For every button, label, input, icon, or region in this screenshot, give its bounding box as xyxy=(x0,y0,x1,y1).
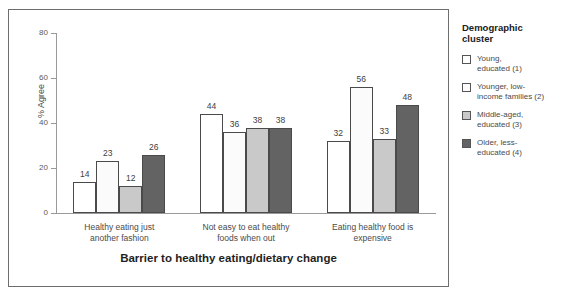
y-axis-title: % Agree xyxy=(36,56,46,146)
legend-items: Young, educated (1)Younger, low- income … xyxy=(462,54,558,157)
legend-item-label: Older, less- educated (4) xyxy=(477,138,522,157)
bar xyxy=(223,132,246,213)
bar-value-label: 56 xyxy=(344,75,379,84)
y-tick-label: 0 xyxy=(22,209,48,217)
y-tick xyxy=(51,213,56,214)
legend-item-label: Middle-aged, educated (3) xyxy=(477,110,523,129)
bar xyxy=(350,87,373,213)
y-tick xyxy=(51,123,56,124)
bar xyxy=(142,155,165,214)
bar-value-label: 48 xyxy=(390,93,425,102)
bar-value-label: 38 xyxy=(263,116,298,125)
legend-swatch-icon xyxy=(462,83,471,92)
legend-item[interactable]: Young, educated (1) xyxy=(462,54,558,73)
bar xyxy=(96,161,119,213)
legend-item-label: Young, educated (1) xyxy=(477,54,522,73)
bar-value-label: 44 xyxy=(194,102,229,111)
legend-title: Demographic cluster xyxy=(462,22,558,44)
y-tick-label: 20 xyxy=(22,164,48,172)
bar xyxy=(373,139,396,213)
y-tick-label: 80 xyxy=(22,29,48,37)
legend-item-label: Younger, low- income families (2) xyxy=(477,82,544,101)
bar xyxy=(73,182,96,214)
legend-swatch-icon xyxy=(462,139,471,148)
legend-swatch-icon xyxy=(462,55,471,64)
y-tick xyxy=(51,78,56,79)
bar xyxy=(246,128,269,214)
bar xyxy=(327,141,350,213)
bar-value-label: 23 xyxy=(90,149,125,158)
y-axis-line xyxy=(56,33,57,213)
category-label: Eating healthy food is expensive xyxy=(301,222,444,243)
x-axis-title: Barrier to healthy eating/dietary change xyxy=(8,252,449,264)
legend-swatch-icon xyxy=(462,111,471,120)
bar xyxy=(119,186,142,213)
legend-item[interactable]: Younger, low- income families (2) xyxy=(462,82,558,101)
chart-figure: 020406080 % Agree 1423122644363838325633… xyxy=(0,0,563,297)
category-label: Not easy to eat healthy foods when out xyxy=(175,222,318,243)
legend-item[interactable]: Older, less- educated (4) xyxy=(462,138,558,157)
y-tick xyxy=(51,168,56,169)
legend-item[interactable]: Middle-aged, educated (3) xyxy=(462,110,558,129)
bar-value-label: 26 xyxy=(136,143,171,152)
y-tick xyxy=(51,33,56,34)
bar xyxy=(396,105,419,213)
category-label: Healthy eating just another fashion xyxy=(48,222,191,243)
bar xyxy=(269,128,292,214)
x-axis-baseline xyxy=(56,213,436,214)
legend: Demographic cluster Young, educated (1)Y… xyxy=(462,22,558,166)
